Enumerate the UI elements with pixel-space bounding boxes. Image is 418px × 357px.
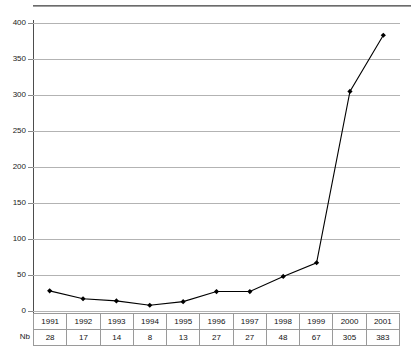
y-axis-tick-label: 350	[0, 54, 26, 63]
table-cell-value: 17	[67, 330, 100, 346]
table-cell-value: 28	[34, 330, 67, 346]
table-cell-year: 1993	[100, 314, 133, 330]
gridline	[33, 239, 400, 240]
chart-figure: 050100150200250300350400 Nb 199119921993…	[0, 0, 418, 357]
table-cell-value: 48	[266, 330, 299, 346]
table-cell-year: 1991	[34, 314, 67, 330]
gridline	[33, 131, 400, 132]
table-cell-year: 2000	[333, 314, 366, 330]
y-axis-tick-label: 50	[0, 270, 26, 279]
table-cell-year: 1997	[233, 314, 266, 330]
data-table: 1991199219931994199519961997199819992000…	[33, 313, 400, 346]
table-cell-value: 305	[333, 330, 366, 346]
y-axis-tick-label: 200	[0, 162, 26, 171]
table-cell-year: 1996	[200, 314, 233, 330]
table-cell-year: 2001	[366, 314, 399, 330]
table-cell-year: 1992	[67, 314, 100, 330]
table-row-label: Nb	[0, 329, 30, 344]
plot-area	[33, 23, 400, 311]
y-axis-tick-label: 150	[0, 198, 26, 207]
table-row: 1991199219931994199519961997199819992000…	[34, 314, 400, 330]
gridline	[33, 95, 400, 96]
table-cell-year: 1995	[167, 314, 200, 330]
gridline	[33, 203, 400, 204]
table-cell-value: 13	[167, 330, 200, 346]
y-axis-tick-label: 250	[0, 126, 26, 135]
gridline	[33, 23, 400, 24]
table-cell-value: 67	[300, 330, 333, 346]
table-cell-value: 8	[133, 330, 166, 346]
y-axis-tick-label: 400	[0, 18, 26, 27]
table-cell-value: 14	[100, 330, 133, 346]
table-row: 28171481327274867305383	[34, 330, 400, 346]
gridline	[33, 59, 400, 60]
table-cell-year: 1998	[266, 314, 299, 330]
y-axis-tick-label: 300	[0, 90, 26, 99]
table-cell-value: 383	[366, 330, 399, 346]
y-axis-tick-label: 100	[0, 234, 26, 243]
gridline	[33, 311, 400, 312]
gridline	[33, 167, 400, 168]
gridline	[33, 275, 400, 276]
table-cell-year: 1994	[133, 314, 166, 330]
table-cell-value: 27	[200, 330, 233, 346]
y-axis-tick-label: 0	[0, 306, 26, 315]
top-border-rule	[33, 5, 411, 7]
table-cell-value: 27	[233, 330, 266, 346]
table-cell-year: 1999	[300, 314, 333, 330]
